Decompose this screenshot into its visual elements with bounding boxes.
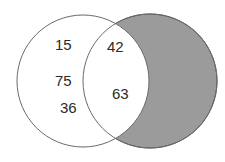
- intersection-value-1: 42: [107, 38, 124, 55]
- venn-diagram: 15 75 36 42 63: [0, 0, 225, 162]
- intersection-value-2: 63: [112, 85, 129, 102]
- left-only-value-3: 36: [60, 99, 77, 116]
- left-only-value-2: 75: [55, 72, 72, 89]
- left-only-value-1: 15: [55, 36, 72, 53]
